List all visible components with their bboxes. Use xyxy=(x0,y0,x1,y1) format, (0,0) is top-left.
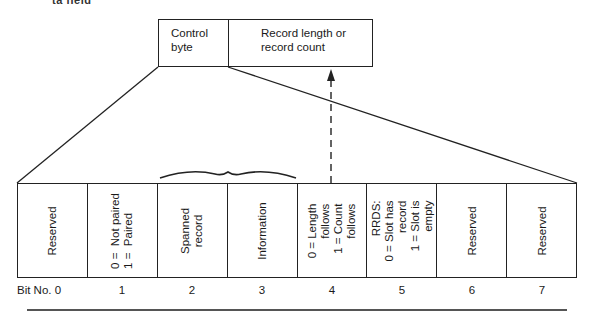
expand-line-left xyxy=(17,67,158,183)
expand-line-right xyxy=(228,67,577,183)
bit-number: Bit No. 0 xyxy=(17,284,87,296)
bit-number: 4 xyxy=(297,284,367,296)
bit-cell-1: 0 = Not paired 1 = Paired xyxy=(88,184,158,277)
bottom-rule xyxy=(27,309,567,311)
bit-cell-0: Reserved xyxy=(18,184,88,277)
arrow-head-icon xyxy=(327,69,335,81)
bit-cell-3: Information xyxy=(228,184,298,277)
bit-number: 6 xyxy=(437,284,507,296)
bit-cell-4: 0 = Length follows 1 = Count follows xyxy=(298,184,368,277)
brace-icon xyxy=(160,172,296,178)
bit-number: 7 xyxy=(507,284,577,296)
bit-number: 2 xyxy=(157,284,227,296)
bit-number: 3 xyxy=(227,284,297,296)
bit-cell-7: Reserved xyxy=(507,184,576,277)
bit-field-row: Reserved 0 = Not paired 1 = Paired Spann… xyxy=(17,183,577,278)
bit-number-row: Bit No. 0 1 2 3 4 5 6 7 xyxy=(17,284,577,296)
bit-cell-6: Reserved xyxy=(437,184,507,277)
bit-cell-2: Spanned record xyxy=(158,184,228,277)
bit-number: 5 xyxy=(367,284,437,296)
bit-cell-5: RRDS: 0 = Slot has record 1 = Slot is em… xyxy=(367,184,437,277)
bit-number: 1 xyxy=(87,284,157,296)
